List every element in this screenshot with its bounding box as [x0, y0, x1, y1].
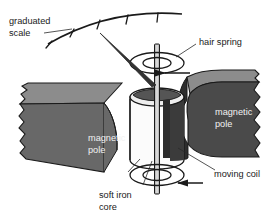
label-magnetic-pole-right-line1: magnetic	[215, 107, 253, 117]
galvanometer-diagram: graduated scale hair spring magnetic pol…	[0, 0, 277, 223]
scale-tick-1	[46, 41, 52, 48]
label-graduated-scale-line1: graduated	[9, 16, 50, 26]
scale-tick-5	[157, 13, 158, 22]
pointer-body	[100, 33, 156, 87]
label-soft-iron-core-line1: soft iron	[99, 190, 132, 200]
pointer-needle	[100, 33, 156, 87]
graduated-scale	[46, 13, 182, 48]
label-moving-coil: moving coil	[214, 169, 260, 179]
soft-iron-core-stripe	[163, 99, 170, 158]
diagram-canvas: graduated scale hair spring magnetic pol…	[0, 0, 277, 223]
current-arrow-head	[177, 180, 188, 187]
leader-hair-spring	[176, 44, 196, 57]
coil-arrow-head	[155, 70, 166, 77]
label-magnetic-pole-left-line1: magnetic	[88, 133, 126, 143]
coil-arrow-right	[155, 70, 190, 77]
scale-arc	[48, 13, 182, 44]
label-magnetic-pole-right-line2: pole	[215, 119, 232, 129]
label-magnetic-pole-left-line2: pole	[88, 145, 105, 155]
leader-graduated-scale	[44, 29, 72, 33]
pole-left-top-face	[20, 83, 122, 104]
label-soft-iron-core-line2: core	[99, 202, 117, 212]
label-graduated-scale-line2: scale	[9, 28, 30, 38]
label-hair-spring: hair spring	[199, 37, 242, 47]
cylinder-shade-stripe	[170, 99, 184, 161]
spindle	[155, 44, 160, 194]
magnetic-pole-left	[19, 83, 122, 172]
